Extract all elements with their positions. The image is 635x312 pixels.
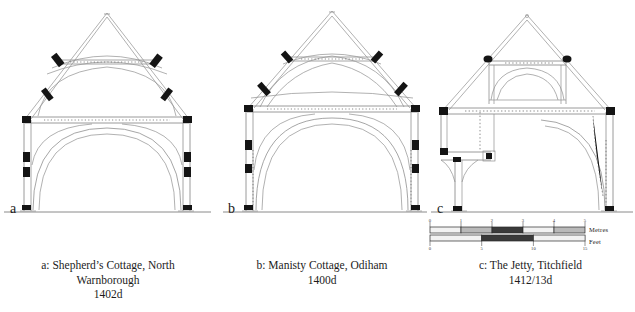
feet-tick-15: 15 bbox=[583, 246, 588, 251]
joint-post-base-right-a bbox=[183, 205, 192, 210]
feet-ticks bbox=[430, 241, 585, 246]
joint-post-base-right-b bbox=[411, 205, 420, 210]
jetty-bracket-curve-right-c bbox=[462, 160, 478, 182]
jetty-bracket-curve-c bbox=[441, 160, 455, 182]
metres-tick-2: 2 bbox=[491, 218, 494, 223]
metres-seg-0-1 bbox=[430, 227, 461, 233]
arch-brace-left-a bbox=[32, 124, 92, 165]
joint-post-head-right-c bbox=[606, 107, 615, 115]
drawing-the-jetty-titchfield bbox=[425, 0, 635, 228]
hall-arch-b bbox=[256, 118, 408, 210]
metres-seg-2-3 bbox=[492, 227, 523, 233]
feet-tick-5: 5 bbox=[481, 246, 484, 251]
joint-jetty-left-c bbox=[440, 148, 448, 155]
feet-segments bbox=[430, 235, 585, 241]
metres-seg-1-2 bbox=[461, 227, 492, 233]
scale-bar: 0 1 2 3 4 5 bbox=[425, 218, 635, 252]
rafter-left-c bbox=[443, 15, 527, 110]
joint-blocks-b bbox=[244, 51, 420, 210]
caption-c-line-1: c: The Jetty, Titchfield bbox=[428, 258, 633, 273]
caption-b-line-1: b: Manisty Cottage, Odiham bbox=[216, 258, 428, 273]
feet-row: 0 5 10 15 bbox=[429, 235, 588, 251]
joint-rail-left-lower-b bbox=[245, 164, 252, 173]
joint-post-base-left-b bbox=[244, 205, 253, 210]
caption-c: c: The Jetty, Titchfield 1412/13d bbox=[428, 258, 633, 287]
joint-rail-right-lower-b bbox=[412, 164, 419, 173]
cruck-blade-left-inner-b bbox=[267, 63, 332, 107]
joint-collar-right-c bbox=[563, 55, 572, 62]
panel-letter-c: c bbox=[437, 201, 443, 217]
joint-post-base-right-c bbox=[605, 206, 614, 211]
scale-bar-svg: 0 1 2 3 4 5 bbox=[425, 218, 635, 252]
panel-letter-b: b bbox=[228, 201, 235, 217]
cross-section-b-svg bbox=[215, 0, 430, 228]
joint-blocks-a bbox=[22, 53, 192, 210]
caption-a-line-1: a: Shepherd’s Cottage, North bbox=[2, 258, 214, 273]
caption-a: a: Shepherd’s Cottage, North Warnborough… bbox=[2, 258, 214, 302]
scale-bar-metres-label: Metres bbox=[589, 226, 608, 233]
feet-seg-5-10 bbox=[482, 235, 534, 241]
metres-tick-1: 1 bbox=[460, 218, 463, 223]
hall-arch-a bbox=[33, 128, 181, 210]
hall-arch-inner-b bbox=[262, 124, 402, 210]
feet-seg-10-15 bbox=[533, 235, 585, 241]
feet-tick-labels: 0 5 10 15 bbox=[429, 246, 588, 251]
joint-post-head-left-a bbox=[22, 116, 31, 123]
feet-seg-0-5 bbox=[430, 235, 482, 241]
drawing-shepherds-cottage-north-warnborough bbox=[0, 0, 215, 228]
caption-c-line-2: 1412/13d bbox=[428, 273, 633, 288]
hall-arch-inner-c bbox=[545, 126, 599, 210]
tie-beam-camber-b bbox=[251, 92, 413, 98]
metres-tick-0: 0 bbox=[429, 218, 432, 223]
metres-seg-4-5 bbox=[554, 227, 585, 233]
panel-letter-a: a bbox=[10, 201, 16, 217]
metres-row: 0 1 2 3 4 5 bbox=[429, 218, 587, 233]
rafter-right-c bbox=[527, 15, 611, 110]
rafter-left-a bbox=[25, 13, 107, 119]
caption-a-line-2: Warnborough bbox=[2, 273, 214, 288]
arch-brace-collar-left-c bbox=[491, 68, 527, 100]
arch-brace-collar-right-c bbox=[527, 68, 564, 100]
joint-rail-right-upper-b bbox=[412, 140, 419, 150]
joint-blade-right-b bbox=[394, 82, 408, 96]
metres-seg-3-4 bbox=[523, 227, 554, 233]
joint-collar-left-c bbox=[484, 55, 493, 62]
joint-blade-right-a bbox=[160, 87, 173, 101]
caption-b: b: Manisty Cottage, Odiham 1400d bbox=[216, 258, 428, 287]
peg-detail-group-c bbox=[465, 63, 606, 205]
joint-collar-right-a bbox=[149, 53, 163, 68]
cross-section-c-svg bbox=[425, 0, 635, 228]
hall-arch-c bbox=[541, 120, 605, 210]
caption-a-line-3: 1402d bbox=[2, 287, 214, 302]
cruck-blade-right-inner-b bbox=[332, 63, 397, 107]
joint-rail-right-upper-a bbox=[184, 152, 191, 162]
joint-post-head-right-a bbox=[183, 116, 192, 123]
joint-rail-right-lower-a bbox=[184, 167, 191, 177]
joint-jetty-post-head-c bbox=[453, 157, 461, 162]
metres-tick-5: 5 bbox=[584, 218, 587, 223]
scale-bar-feet-label: Feet bbox=[589, 238, 601, 245]
cross-section-a-svg bbox=[0, 0, 215, 228]
arch-brace-right-a bbox=[122, 124, 182, 165]
joint-blade-left-a bbox=[41, 87, 54, 101]
joint-blocks-c bbox=[439, 55, 615, 211]
metres-ticks bbox=[430, 222, 585, 227]
joint-rail-left-upper-b bbox=[245, 140, 252, 150]
metres-tick-3: 3 bbox=[522, 218, 525, 223]
joint-post-head-left-c bbox=[439, 107, 448, 115]
feet-tick-0: 0 bbox=[429, 246, 432, 251]
joint-post-base-left-a bbox=[22, 205, 31, 210]
joint-post-head-left-b bbox=[244, 105, 253, 112]
joint-post-head-right-b bbox=[411, 105, 420, 112]
metres-segments bbox=[430, 227, 585, 233]
joint-jetty-bracket-c bbox=[486, 153, 492, 159]
metres-tick-labels: 0 1 2 3 4 5 bbox=[429, 218, 587, 223]
rafter-right-a bbox=[107, 13, 189, 119]
hall-arch-inner-a bbox=[39, 134, 175, 210]
feet-tick-10: 10 bbox=[531, 246, 536, 251]
joint-post-base-left-c bbox=[453, 206, 462, 211]
figure-three-building-cross-sections: a bbox=[0, 0, 635, 312]
peg-detail-group-a bbox=[44, 62, 170, 120]
caption-b-line-2: 1400d bbox=[216, 273, 428, 288]
arch-dash-c bbox=[593, 116, 603, 196]
